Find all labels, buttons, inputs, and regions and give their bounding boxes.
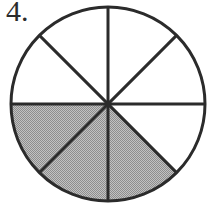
figure-container: 4.: [0, 0, 217, 207]
fraction-circle-diagram: [0, 0, 217, 207]
